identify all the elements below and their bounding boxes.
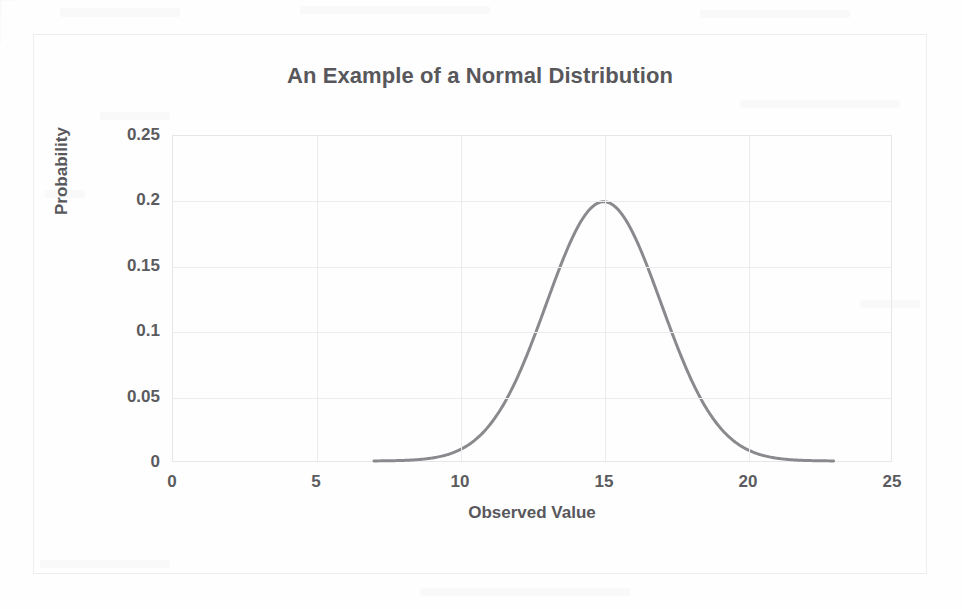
x-tick-label: 0 (167, 472, 176, 492)
gridline-horizontal (173, 267, 891, 268)
y-tick-label: 0.25 (127, 125, 160, 145)
scan-artifact (420, 588, 630, 596)
x-tick-label: 25 (883, 472, 902, 492)
chart-title: An Example of a Normal Distribution (34, 63, 926, 89)
x-tick-label: 20 (739, 472, 758, 492)
y-tick-label: 0.15 (127, 256, 160, 276)
gridline-vertical (461, 136, 462, 461)
chart-frame: An Example of a Normal Distribution Prob… (33, 34, 927, 574)
y-tick-label: 0.2 (136, 190, 160, 210)
distribution-curve (173, 136, 891, 461)
chart-page: An Example of a Normal Distribution Prob… (0, 0, 962, 609)
gridline-horizontal (173, 332, 891, 333)
x-tick-label: 5 (311, 472, 320, 492)
x-axis-title: Observed Value (172, 503, 892, 523)
scan-artifact (700, 10, 850, 18)
gridline-vertical (605, 136, 606, 461)
x-tick-label: 15 (595, 472, 614, 492)
y-tick-label: 0.1 (136, 321, 160, 341)
plot-area (172, 135, 892, 462)
scan-artifact (300, 6, 490, 14)
gridline-vertical (317, 136, 318, 461)
x-axis-tick-labels: 0510152025 (172, 472, 892, 498)
gridline-horizontal (173, 201, 891, 202)
gridline-horizontal (173, 398, 891, 399)
y-axis-tick-labels: 00.050.10.150.20.25 (34, 135, 160, 462)
scan-artifact (60, 8, 180, 17)
gridline-vertical (749, 136, 750, 461)
x-tick-label: 10 (451, 472, 470, 492)
y-tick-label: 0 (151, 452, 160, 472)
y-tick-label: 0.05 (127, 387, 160, 407)
